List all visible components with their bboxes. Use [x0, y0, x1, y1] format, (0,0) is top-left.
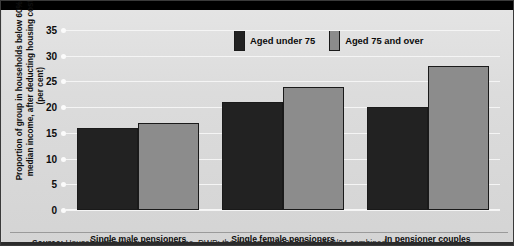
y-axis-tick-dot	[61, 208, 66, 213]
y-axis-tick-dot	[61, 182, 66, 187]
chart-figure: Proportion of group in households below …	[0, 0, 514, 246]
y-axis-tick-label: 30	[46, 50, 57, 61]
bar	[367, 107, 428, 210]
y-axis-tick-dot	[61, 28, 66, 33]
y-axis-tick-dot	[61, 105, 66, 110]
gridline	[66, 56, 500, 57]
footer-divider	[10, 232, 508, 233]
bar	[138, 123, 199, 210]
bar	[428, 66, 489, 210]
bar	[283, 87, 344, 210]
bar	[222, 102, 283, 210]
y-axis-tick-label: 0	[51, 205, 57, 216]
y-axis-tick-label: 15	[46, 127, 57, 138]
y-axis-tick-label: 10	[46, 153, 57, 164]
y-axis-tick-dot	[61, 79, 66, 84]
y-axis-title: Proportion of group in households below …	[15, 0, 47, 181]
y-axis-tick-label: 5	[51, 179, 57, 190]
top-black-band	[1, 1, 514, 10]
y-axis-tick-label: 25	[46, 76, 57, 87]
chart-surface: Proportion of group in households below …	[2, 10, 514, 246]
y-axis-tick-label: 35	[46, 25, 57, 36]
y-axis-tick-dot	[61, 131, 66, 136]
bottom-rule	[1, 242, 514, 245]
bar	[77, 128, 138, 210]
y-axis-tick-label: 20	[46, 102, 57, 113]
plot-area: 05101520253035Single male pensionersSing…	[66, 30, 500, 210]
y-axis-tick-dot	[61, 54, 66, 59]
gridline	[66, 210, 500, 211]
y-axis-tick-dot	[61, 157, 66, 162]
gridline	[66, 30, 500, 31]
